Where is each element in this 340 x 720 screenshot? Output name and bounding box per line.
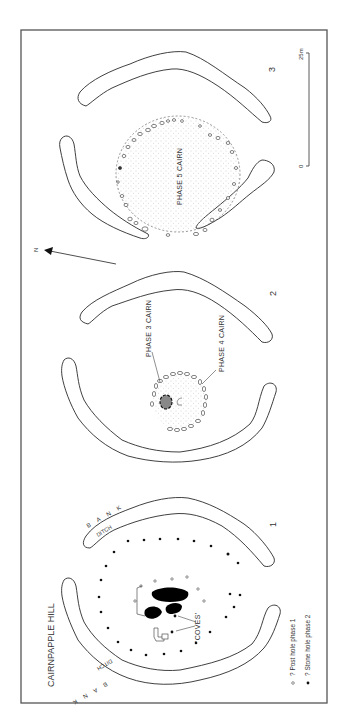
north-label: N <box>33 248 39 252</box>
site-plan: PHASE 5 CAIRN 3 25m 0 N <box>0 0 340 720</box>
phase-4-leader <box>202 370 216 384</box>
phase-number-1: 1 <box>268 522 278 527</box>
coves <box>137 586 196 641</box>
scale-bar: 25m 0 <box>298 48 309 168</box>
phase-2-plan: PHASE 3 CAIRN PHASE 4 CAIRN 2 <box>62 272 278 463</box>
phase-1-plan: 'COVES' B A N K DITCH DITCH B A N K 1 <box>62 497 281 707</box>
open-circle-icon <box>292 682 295 685</box>
north-arrow: N <box>33 247 116 264</box>
coves-label: 'COVES' <box>194 613 201 642</box>
north-arrow-head-icon <box>44 247 53 255</box>
scale-bar-start-label: 0 <box>298 164 304 168</box>
phase-4-cairn-label: PHASE 4 CAIRN <box>218 315 225 372</box>
scale-bar-end-label: 25m <box>298 48 304 60</box>
phase-3-cairn-label: PHASE 3 CAIRN <box>145 300 152 357</box>
phase-5-cairn-label: PHASE 5 CAIRN <box>176 148 183 205</box>
phase-number-2: 2 <box>268 291 278 296</box>
filled-circle-icon <box>307 682 310 685</box>
legend: ? Post hole phase 1 ? Stone hole phase 2 <box>289 614 312 684</box>
phase-3-leader <box>152 352 160 382</box>
legend-item-stone-hole: ? Stone hole phase 2 <box>304 614 312 676</box>
phase-3-plan: PHASE 5 CAIRN 3 <box>60 52 277 239</box>
phase-number-3: 3 <box>267 67 277 72</box>
figure-title: CAIRNPAPPLE HILL <box>46 603 56 687</box>
phase-3-cairn <box>160 395 172 409</box>
legend-item-post-hole: ? Post hole phase 1 <box>289 618 297 676</box>
ditch-segment <box>80 272 272 343</box>
ditch-segment <box>78 52 271 123</box>
